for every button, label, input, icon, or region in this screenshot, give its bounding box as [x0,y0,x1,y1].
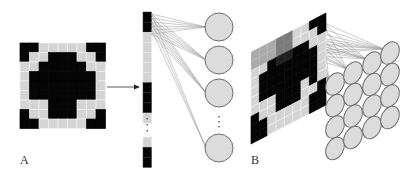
pixel-cell [20,43,30,53]
pixel-cell [20,62,30,72]
panel-label-a: A [20,153,29,167]
flatten-arrow-icon [107,85,140,90]
panel-label-b: B [251,153,259,167]
pixel-cell [77,119,87,129]
pixel-cell [96,81,106,91]
pixel-cell [96,43,106,53]
vector-cell [143,83,152,93]
vector-cell [143,73,152,83]
pixel-cell [58,110,68,120]
pixel-cell [68,91,78,101]
connection-line [152,30,207,93]
pixel-cell [87,43,97,53]
pixel-cell [68,62,78,72]
pixel-cell [30,91,40,101]
pixel-cell [39,110,49,120]
pixel-cell [39,100,49,110]
vector-cell [143,103,152,113]
sheared-grid [251,13,326,144]
pixel-cell [49,62,59,72]
pixel-cell [68,72,78,82]
input-image-grid [20,43,106,129]
vector-cell [143,32,152,42]
connection-line [152,30,207,148]
pixel-cell [30,81,40,91]
pixel-cell [87,53,97,63]
pixel-cell [30,53,40,63]
pixel-cell [77,43,87,53]
vector-cell [143,63,152,73]
pixel-cell [39,81,49,91]
hidden-neuron-column [205,13,233,162]
pixel-cell [77,100,87,110]
pixel-cell [58,53,68,63]
pixel-cell [20,100,30,110]
pixel-cell [77,110,87,120]
pixel-cell [49,91,59,101]
neuron [205,134,233,162]
neural-network-diagram: A B [0,0,413,172]
panel-b: B [251,13,403,167]
pixel-cell [77,72,87,82]
pixel-cell [96,53,106,63]
pixel-cell [87,91,97,101]
connection-line [152,22,207,93]
pixel-cell [87,81,97,91]
pixel-cell [20,53,30,63]
pixel-cell [77,62,87,72]
pixel-cell [96,110,106,120]
vector-cell [143,157,152,167]
connection-line [152,26,207,93]
pixel-cell [49,53,59,63]
vector-cell [143,42,152,52]
pixel-cell [58,43,68,53]
vector-cell [143,147,152,157]
pixel-cell [58,62,68,72]
pixel-cell [68,110,78,120]
pixel-cell [96,91,106,101]
pixel-cell [39,43,49,53]
pixel-cell [96,100,106,110]
connection-line [152,14,207,27]
vector-cell [143,22,152,32]
pixel-cell [20,119,30,129]
pixel-cell [39,119,49,129]
ellipsis-dot [147,118,149,120]
panel-a: A [20,12,233,167]
pixel-cell [68,119,78,129]
pixel-cell [96,119,106,129]
pixel-cell [77,81,87,91]
pixel-cell [30,43,40,53]
pixel-cell [68,81,78,91]
pixel-cell [20,110,30,120]
pixel-cell [68,53,78,63]
pixel-cell [39,62,49,72]
neuron [205,13,233,41]
pixel-cell [68,100,78,110]
input-image-grid-perspective [251,13,326,144]
pixel-cell [77,91,87,101]
pixel-cell [58,119,68,129]
pixel-cell [49,100,59,110]
pixel-cell [20,72,30,82]
ellipsis-dot [218,126,219,127]
pixel-cell [58,72,68,82]
pixel-cell [30,119,40,129]
pixel-cell [39,91,49,101]
pixel-cell [68,43,78,53]
pixel-cell [87,119,97,129]
pixel-cell [96,62,106,72]
pixel-cell [49,110,59,120]
connection-line [152,34,207,60]
pixel-cell [39,53,49,63]
pixel-cell [30,62,40,72]
pixel-cell [39,72,49,82]
pixel-cell [58,81,68,91]
vector-cell [143,93,152,103]
pixel-cell [87,100,97,110]
pixel-cell [87,72,97,82]
fully-connected-lines [152,14,207,148]
pixel-cell [30,110,40,120]
pixel-cell [58,91,68,101]
pixel-cell [96,72,106,82]
